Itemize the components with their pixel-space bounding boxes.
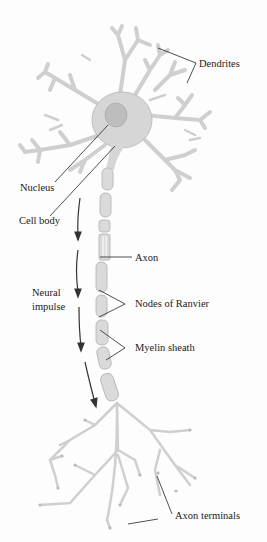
label-axon: Axon [135,252,158,264]
label-neural-impulse-2: impulse [32,301,65,313]
neuron-diagram: Dendrites Nucleus Cell body Axon Neural … [0,0,267,542]
label-dendrites: Dendrites [199,58,240,70]
label-myelin-sheath: Myelin sheath [135,342,195,354]
axon-graphic [96,168,120,402]
axon-terminals-graphic [40,403,195,528]
label-axon-terminals: Axon terminals [175,510,240,522]
label-nodes-of-ranvier: Nodes of Ranvier [135,298,209,310]
impulse-arrows [75,198,97,407]
neuron-illustration [0,0,267,542]
nucleus-shape [105,103,127,127]
label-nucleus: Nucleus [20,182,54,194]
label-cell-body: Cell body [19,215,60,227]
label-neural-impulse-1: Neural [32,287,61,299]
